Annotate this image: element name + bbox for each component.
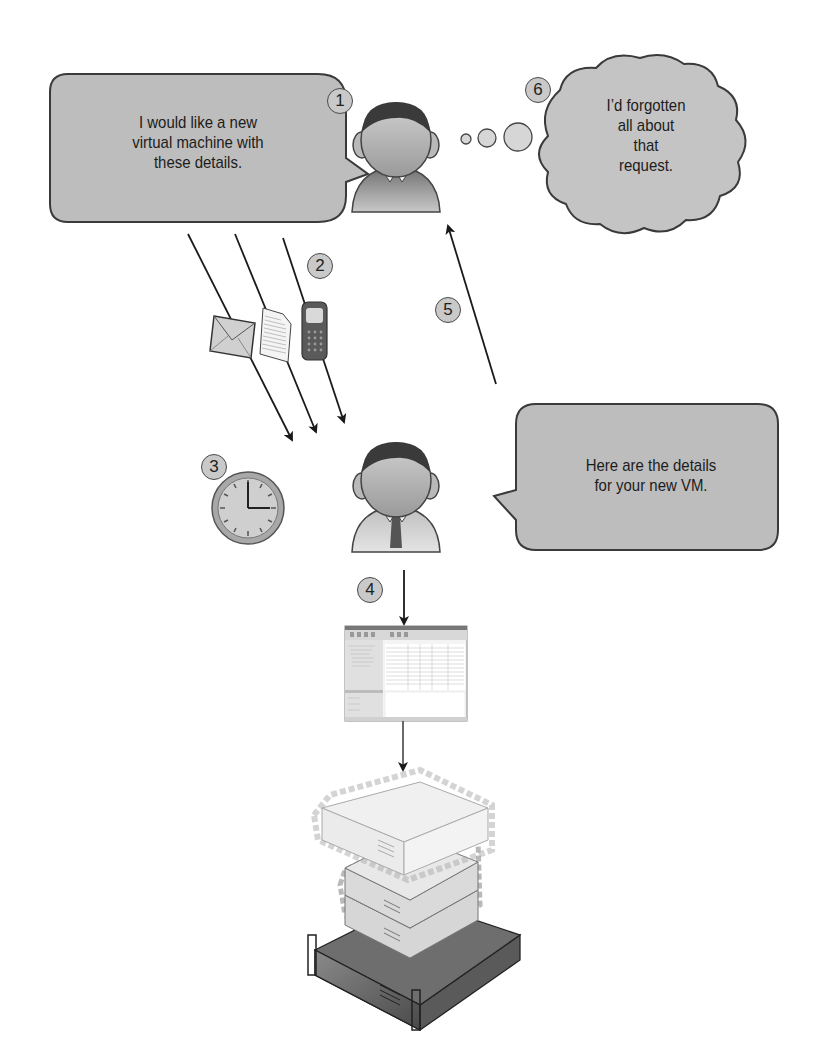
requester-speech-line-2: virtual machine with [75, 133, 321, 153]
requester-speech-text: I would like a new virtual machine with … [75, 113, 321, 173]
server-stack-icon [308, 770, 520, 1030]
admin-speech-text: Here are the details for your new VM. [541, 456, 761, 496]
document-icon [260, 308, 291, 362]
requester-speech-line-1: I would like a new [75, 113, 321, 133]
management-console-screenshot [345, 626, 467, 721]
admin-person-icon [352, 442, 440, 552]
thought-line-2: all about [576, 116, 717, 136]
step-3-marker: 3 [201, 454, 227, 480]
requester-person-icon [352, 102, 440, 212]
step-4-marker: 4 [357, 577, 383, 603]
step-1-marker: 1 [327, 88, 353, 114]
clock-icon [212, 472, 284, 544]
admin-speech-line-1: Here are the details [541, 456, 761, 476]
step-5-marker: 5 [435, 297, 461, 323]
requester-speech-line-3: these details. [75, 153, 321, 173]
thought-line-4: request. [576, 156, 717, 176]
thought-dots [461, 123, 532, 151]
thought-line-3: that [576, 136, 717, 156]
envelope-icon [210, 316, 255, 358]
step-6-marker: 6 [525, 77, 551, 103]
thought-cloud-text: I’d forgotten all about that request. [576, 96, 717, 176]
thought-line-1: I’d forgotten [576, 96, 717, 116]
step-2-marker: 2 [307, 253, 333, 279]
admin-speech-line-2: for your new VM. [541, 476, 761, 496]
mobile-phone-icon [302, 302, 327, 360]
